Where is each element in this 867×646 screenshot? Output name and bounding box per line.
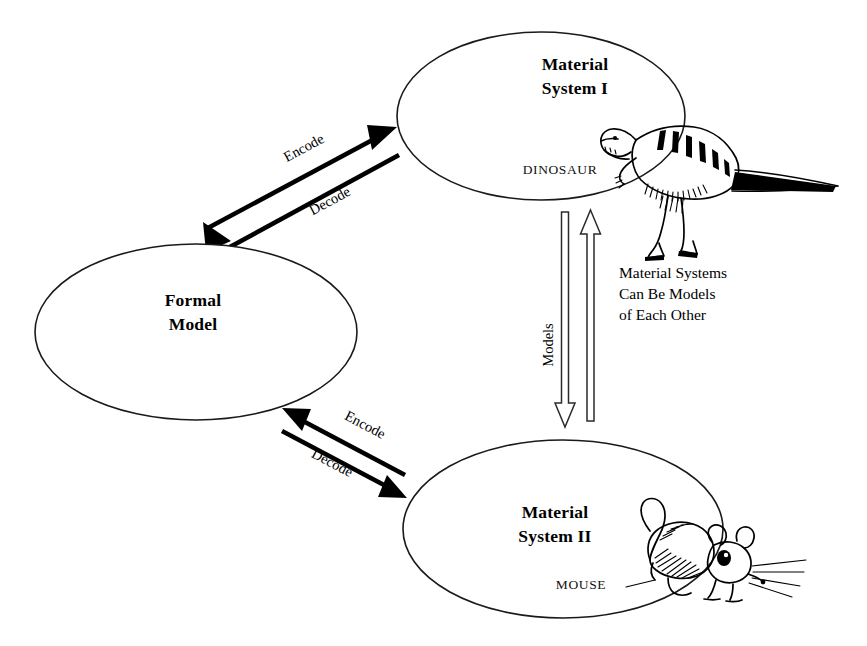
edge-encode-decode-upper: Encode Decode [203, 125, 399, 252]
note-line-3: of Each Other [619, 306, 707, 323]
node-label-formal-model-line1: Formal [165, 290, 222, 310]
note-line-2: Can Be Models [619, 285, 715, 302]
edge-label-decode-upper: Decode [306, 183, 353, 218]
node-label-material-system-1-line1: Material [542, 54, 609, 74]
diagram-canvas: Encode Decode Encode Decode Mo [0, 0, 867, 646]
edge-label-models: Models [540, 323, 556, 367]
edge-encode-decode-lower: Encode Decode [282, 407, 407, 498]
node-label-material-system-2-line1: Material [522, 502, 589, 522]
node-formal-model[interactable]: Formal Model [35, 244, 357, 420]
material-systems-note: Material Systems Can Be Models of Each O… [619, 264, 727, 323]
modeling-relation-diagram: Encode Decode Encode Decode Mo [0, 0, 867, 646]
edge-label-encode-upper: Encode [281, 130, 327, 165]
node-label-formal-model-line2: Model [169, 314, 218, 334]
node-label-material-system-1-line2: System I [542, 78, 608, 98]
node-label-material-system-2-line2: System II [518, 526, 591, 546]
species-label-mouse: MOUSE [556, 577, 606, 592]
edge-label-decode-lower: Decode [309, 445, 356, 480]
note-line-1: Material Systems [619, 264, 727, 281]
edge-decode-upper [203, 155, 399, 252]
edge-models-down-arrow [555, 212, 575, 427]
edge-label-encode-lower: Encode [342, 407, 388, 441]
species-label-dinosaur: DINOSAUR [523, 162, 598, 177]
edge-models-pair: Models [540, 210, 601, 427]
edge-models-up-arrow [581, 210, 601, 421]
node-material-system-1[interactable]: Material System I DINOSAUR [397, 32, 685, 200]
